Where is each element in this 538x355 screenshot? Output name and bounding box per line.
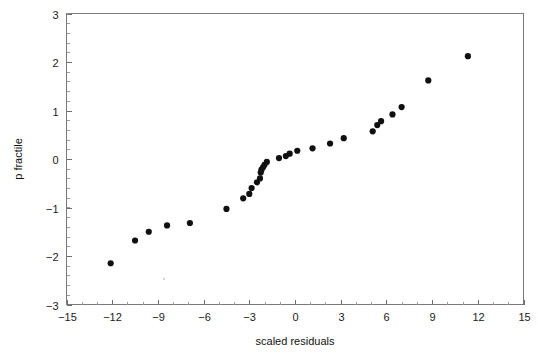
- x-tick-label: 9: [429, 311, 435, 323]
- y-axis-major-ticks: [67, 15, 72, 306]
- y-tick-label: 1: [52, 106, 58, 118]
- data-point: [370, 128, 376, 134]
- data-point: [389, 111, 395, 117]
- qq-plot-figure: −15−12−9−6−303691215 −3−2−10123 scaled r…: [0, 0, 538, 355]
- x-tick-label: −6: [198, 311, 211, 323]
- data-point: [287, 151, 293, 157]
- scatter-plot-canvas: −15−12−9−6−303691215 −3−2−10123 scaled r…: [0, 0, 538, 355]
- y-tick-label: −1: [46, 203, 59, 215]
- x-tick-label: −3: [243, 311, 256, 323]
- data-point: [146, 229, 152, 235]
- data-point: [248, 185, 254, 191]
- y-tick-label: −3: [46, 300, 59, 312]
- data-point: [223, 206, 229, 212]
- data-point: [132, 237, 138, 243]
- data-point: [187, 220, 193, 226]
- y-tick-label: 2: [52, 57, 58, 69]
- y-axis-tick-labels: −3−2−10123: [46, 9, 59, 312]
- data-point: [327, 140, 333, 146]
- x-axis-title: scaled residuals: [256, 335, 335, 347]
- data-point: [399, 104, 405, 110]
- data-point: [294, 148, 300, 154]
- data-point: [276, 155, 282, 161]
- data-point: [246, 191, 252, 197]
- y-tick-label: −2: [46, 251, 59, 263]
- x-tick-label: 3: [338, 311, 344, 323]
- x-tick-label: −12: [103, 311, 122, 323]
- data-point: [465, 53, 471, 59]
- y-tick-label: 3: [52, 9, 58, 21]
- x-tick-label: 15: [518, 311, 530, 323]
- data-point: [425, 77, 431, 83]
- data-point: [108, 260, 114, 266]
- y-axis-title: p fractile: [12, 138, 24, 180]
- data-point: [309, 145, 315, 151]
- x-tick-label: 6: [383, 311, 389, 323]
- y-tick-label: 0: [52, 154, 58, 166]
- x-tick-label: 12: [472, 311, 484, 323]
- data-point: [240, 195, 246, 201]
- x-tick-label: −9: [152, 311, 165, 323]
- stray-speck: [163, 278, 165, 280]
- x-tick-label: −15: [58, 311, 77, 323]
- data-point: [264, 159, 270, 165]
- annotation-layer: [163, 278, 165, 280]
- x-axis-major-ticks: [68, 300, 525, 305]
- data-point: [341, 135, 347, 141]
- x-axis-tick-labels: −15−12−9−6−303691215: [58, 311, 530, 323]
- data-point: [257, 175, 263, 181]
- plot-frame: [67, 14, 524, 305]
- scatter-series-sample-quantiles: [108, 53, 471, 266]
- data-point: [164, 222, 170, 228]
- x-tick-label: 0: [292, 311, 298, 323]
- data-point: [378, 118, 384, 124]
